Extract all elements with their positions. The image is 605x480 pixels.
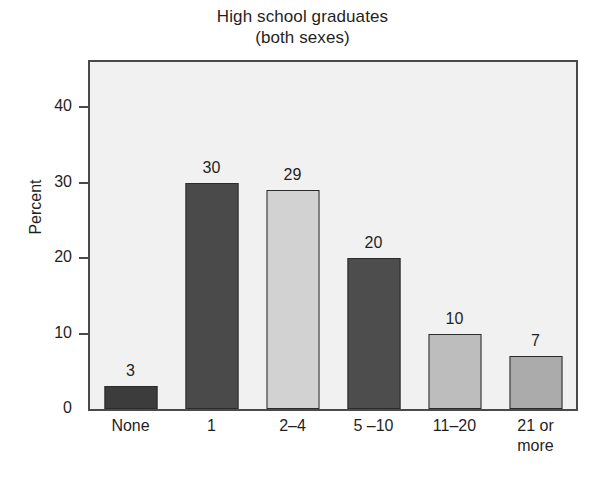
x-axis-category-label: 5 –10 bbox=[333, 416, 414, 436]
y-axis-tick-label: 40 bbox=[0, 97, 72, 115]
y-axis-tick bbox=[79, 257, 88, 259]
bar-value-label: 7 bbox=[531, 332, 540, 350]
x-axis-category-line: 5 –10 bbox=[333, 416, 414, 436]
chart-title-line-2: (both sexes) bbox=[0, 27, 605, 48]
x-axis-category-line: 11–20 bbox=[414, 416, 495, 436]
bar-value-label: 3 bbox=[126, 362, 135, 380]
x-axis-category-line: 1 bbox=[171, 416, 252, 436]
bar-slot: 30 bbox=[171, 62, 252, 409]
y-axis-tick-label: 30 bbox=[0, 173, 72, 191]
bar[interactable] bbox=[347, 258, 400, 409]
x-axis-category-label: 11–20 bbox=[414, 416, 495, 436]
bars-container: 3302920107 bbox=[90, 62, 576, 409]
bar[interactable] bbox=[266, 190, 319, 409]
x-axis-category-line: more bbox=[495, 436, 576, 456]
y-axis-tick-label: 20 bbox=[0, 248, 72, 266]
x-axis-category-label: 2–4 bbox=[252, 416, 333, 436]
bar[interactable] bbox=[428, 334, 481, 409]
bar-chart: High school graduates (both sexes) Perce… bbox=[0, 0, 605, 480]
bar-slot: 7 bbox=[495, 62, 576, 409]
x-axis-category-label: 21 ormore bbox=[495, 416, 576, 456]
bar-value-label: 29 bbox=[284, 166, 302, 184]
x-axis-category-line: 21 or bbox=[495, 416, 576, 436]
x-axis-category-label: 1 bbox=[171, 416, 252, 436]
bar-value-label: 20 bbox=[365, 234, 383, 252]
x-axis-category-line: 2–4 bbox=[252, 416, 333, 436]
bar-slot: 20 bbox=[333, 62, 414, 409]
chart-title: High school graduates (both sexes) bbox=[0, 6, 605, 48]
bar[interactable] bbox=[185, 183, 238, 409]
bar[interactable] bbox=[104, 386, 157, 409]
chart-title-line-1: High school graduates bbox=[217, 7, 388, 26]
y-axis-tick-label: 0 bbox=[0, 399, 72, 417]
y-axis-tick bbox=[79, 333, 88, 335]
bar[interactable] bbox=[509, 356, 562, 409]
bar-slot: 10 bbox=[414, 62, 495, 409]
bar-slot: 29 bbox=[252, 62, 333, 409]
bar-value-label: 10 bbox=[446, 310, 464, 328]
x-axis-category-line: None bbox=[90, 416, 171, 436]
y-axis-tick-label: 10 bbox=[0, 324, 72, 342]
y-axis-tick bbox=[79, 106, 88, 108]
x-axis-category-label: None bbox=[90, 416, 171, 436]
y-axis-tick bbox=[79, 182, 88, 184]
bar-slot: 3 bbox=[90, 62, 171, 409]
bar-value-label: 30 bbox=[203, 159, 221, 177]
